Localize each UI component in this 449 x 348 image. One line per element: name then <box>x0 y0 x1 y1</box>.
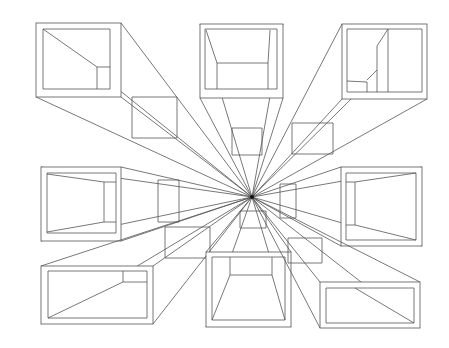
box-middle-right <box>252 167 422 246</box>
vanishing-point <box>250 195 254 199</box>
box-middle-left <box>41 167 252 241</box>
box-top-center <box>200 24 283 197</box>
drawing-canvas <box>0 0 449 348</box>
perspective-drawing <box>0 0 449 348</box>
box-bottom-center <box>206 197 291 327</box>
